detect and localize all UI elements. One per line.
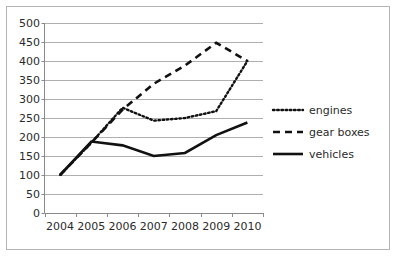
legend-label-gear-boxes: gear boxes	[309, 126, 370, 139]
series-line-vehicles	[60, 123, 247, 175]
x-axis-tick-label: 2010	[233, 220, 261, 233]
x-axis-tick-label: 2005	[77, 220, 105, 233]
chart-legend: enginesgear boxesvehicles	[273, 104, 370, 161]
y-axis-tick-label: 150	[19, 150, 40, 163]
x-axis-tick-label: 2008	[171, 220, 199, 233]
series-line-engines	[60, 61, 247, 175]
chart-svg: 050100150200250300350400450500 200420052…	[0, 0, 398, 258]
legend-label-vehicles: vehicles	[309, 148, 354, 161]
x-axis-tick-label: 2007	[140, 220, 168, 233]
x-tick-labels: 2004200520062007200820092010	[46, 220, 261, 233]
y-axis-tick-label: 500	[19, 17, 40, 30]
y-axis-tick-label: 0	[33, 207, 40, 220]
line-chart: 050100150200250300350400450500 200420052…	[0, 0, 398, 258]
x-axis-tick-label: 2004	[46, 220, 74, 233]
y-axis-tick-label: 400	[19, 55, 40, 68]
y-tick-labels: 050100150200250300350400450500	[19, 17, 45, 220]
x-axis-tick-label: 2009	[202, 220, 230, 233]
y-axis-tick-label: 250	[19, 112, 40, 125]
y-axis-tick-label: 50	[26, 188, 40, 201]
y-axis-tick-label: 300	[19, 93, 40, 106]
x-axis-tick-label: 2006	[109, 220, 137, 233]
y-axis-tick-label: 200	[19, 131, 40, 144]
legend-label-engines: engines	[309, 104, 353, 117]
y-axis-tick-label: 350	[19, 74, 40, 87]
y-axis-tick-label: 450	[19, 36, 40, 49]
y-axis-tick-label: 100	[19, 169, 40, 182]
series-group	[60, 43, 247, 175]
